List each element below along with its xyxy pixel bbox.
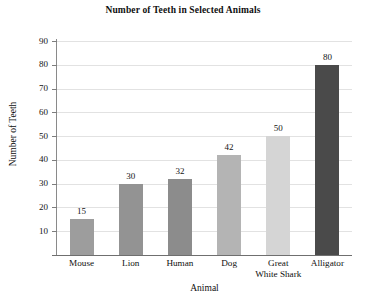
- bar-dog: [217, 155, 241, 255]
- bar-human: [168, 179, 192, 255]
- y-tick-label: 90: [0, 37, 48, 46]
- gridline-90: [57, 41, 352, 42]
- x-tick-label-line: White Shark: [244, 269, 312, 280]
- bar-value-label: 32: [160, 167, 200, 176]
- y-tick-label: 10: [0, 227, 48, 236]
- x-tick-label-line: Mouse: [69, 258, 94, 268]
- y-tick-mark-30: [52, 184, 57, 185]
- y-tick-label: 40: [0, 155, 48, 164]
- gridline-80: [57, 65, 352, 66]
- y-tick-label: 60: [0, 108, 48, 117]
- y-tick-mark-80: [52, 65, 57, 66]
- x-tick-label-line: Alligator: [311, 258, 344, 268]
- y-tick-label: 20: [0, 203, 48, 212]
- y-tick-mark-60: [52, 112, 57, 113]
- y-tick-label: 70: [0, 84, 48, 93]
- y-tick-mark-50: [52, 136, 57, 137]
- x-axis-line: [52, 255, 352, 256]
- gridline-10: [57, 231, 352, 232]
- x-tick-label-line: Human: [166, 258, 193, 268]
- gridline-30: [57, 184, 352, 185]
- gridline-70: [57, 89, 352, 90]
- bar-value-label: 15: [62, 207, 102, 216]
- y-tick-label: 30: [0, 179, 48, 188]
- bar-chart-figure: Number of Teeth in Selected Animals Numb…: [0, 0, 366, 298]
- bar-great-white-shark: [266, 136, 290, 255]
- y-tick-mark-40: [52, 160, 57, 161]
- y-tick-mark-70: [52, 89, 57, 90]
- y-tick-label: 80: [0, 60, 48, 69]
- x-axis-title: Animal: [57, 283, 352, 293]
- gridline-60: [57, 112, 352, 113]
- bar-value-label: 50: [258, 124, 298, 133]
- bar-value-label: 80: [307, 53, 347, 62]
- gridline-50: [57, 136, 352, 137]
- x-tick-label-line: Great: [268, 258, 288, 268]
- y-tick-mark-20: [52, 207, 57, 208]
- plot-area: 153032425080: [57, 41, 352, 255]
- bar-alligator: [315, 65, 339, 255]
- y-tick-mark-10: [52, 231, 57, 232]
- x-tick-label-alligator: Alligator: [293, 258, 361, 269]
- x-tick-label-line: Dog: [221, 258, 237, 268]
- bar-value-label: 42: [209, 143, 249, 152]
- x-tick-label-line: Lion: [122, 258, 139, 268]
- bar-value-label: 30: [111, 172, 151, 181]
- y-tick-label: 50: [0, 132, 48, 141]
- gridline-40: [57, 160, 352, 161]
- y-tick-mark-90: [52, 41, 57, 42]
- chart-title: Number of Teeth in Selected Animals: [0, 5, 366, 15]
- bar-lion: [119, 184, 143, 255]
- bar-mouse: [70, 219, 94, 255]
